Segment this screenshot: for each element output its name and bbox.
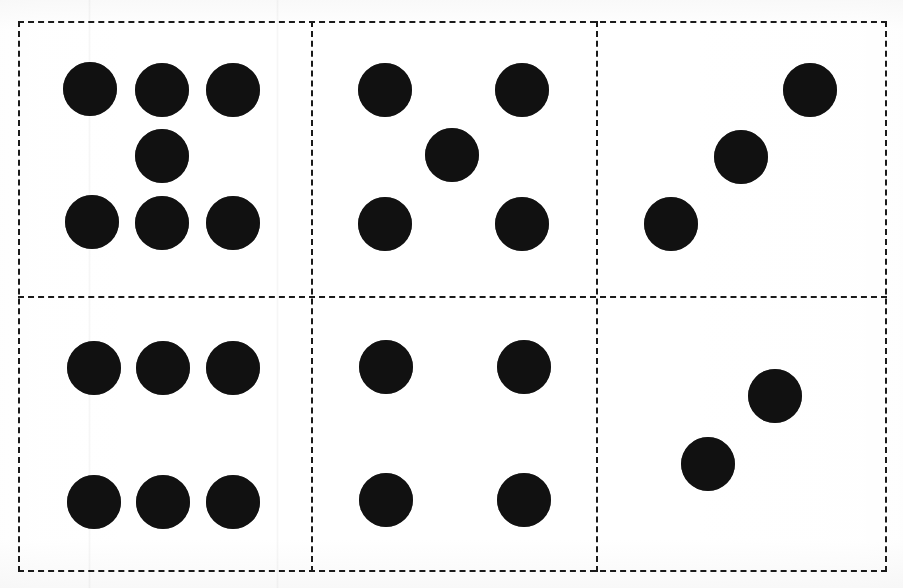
dot [359, 473, 413, 527]
cell-top-middle[interactable] [311, 21, 596, 296]
dot [135, 196, 189, 250]
dot [358, 197, 412, 251]
cell-top-right[interactable] [596, 21, 887, 296]
dot [206, 63, 260, 117]
cell-bottom-middle[interactable] [311, 296, 596, 572]
dot [136, 341, 190, 395]
dot [135, 129, 189, 183]
dot [135, 63, 189, 117]
dot [497, 340, 551, 394]
dot [748, 369, 802, 423]
dot [206, 196, 260, 250]
dot-pattern-page [0, 0, 903, 588]
dot [783, 63, 837, 117]
dot [495, 63, 549, 117]
cell-bottom-right[interactable] [596, 296, 887, 572]
dot [644, 197, 698, 251]
dot [681, 437, 735, 491]
dot [425, 128, 479, 182]
dot [67, 341, 121, 395]
dot [358, 63, 412, 117]
dot [63, 62, 117, 116]
dot [714, 130, 768, 184]
cell-bottom-left[interactable] [18, 296, 311, 572]
dot [136, 475, 190, 529]
dot [65, 195, 119, 249]
dot [67, 475, 121, 529]
dot [359, 340, 413, 394]
cell-top-left[interactable] [18, 21, 311, 296]
dot [497, 473, 551, 527]
dot [495, 197, 549, 251]
dot [206, 341, 260, 395]
dot [206, 475, 260, 529]
